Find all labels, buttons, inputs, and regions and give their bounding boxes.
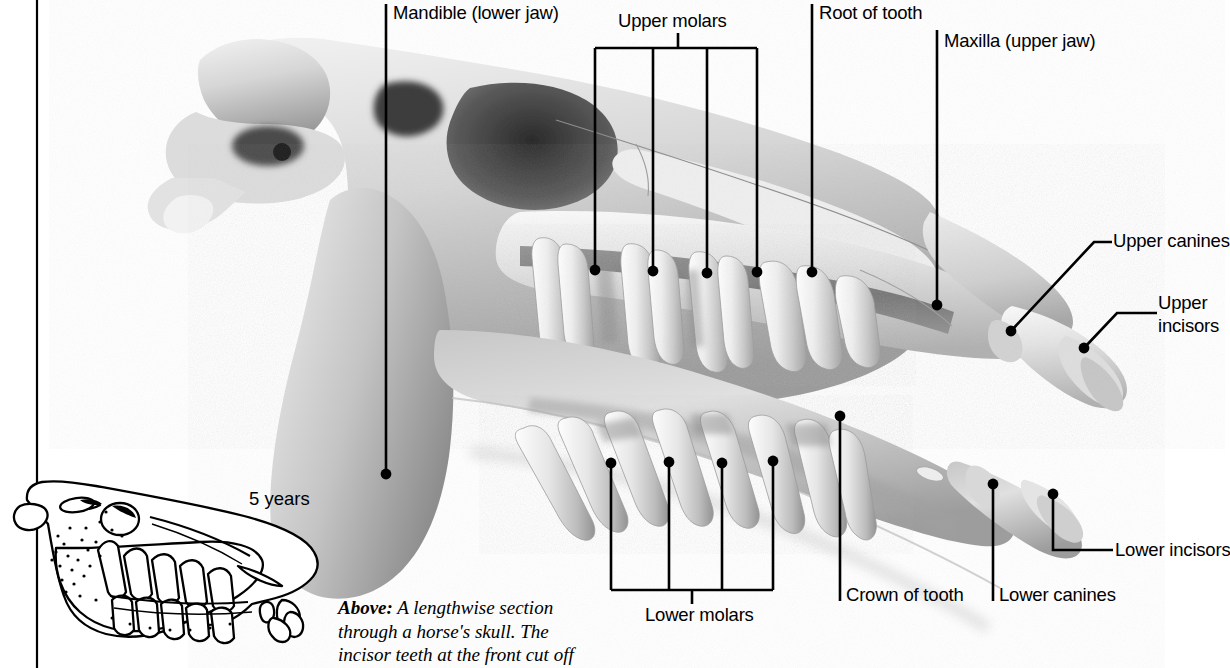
label-lower-molars: Lower molars [645, 604, 754, 625]
label-upper-incisors-line1: Upper [1158, 292, 1207, 313]
caption-line-1: Above: A lengthwise section [338, 597, 553, 618]
label-crown-of-tooth: Crown of tooth [846, 584, 964, 605]
inset-age-label: 5 years [249, 488, 310, 510]
caption-line-3: incisor teeth at the front cut off [338, 644, 574, 665]
label-lower-incisors: Lower incisors [1115, 539, 1230, 560]
label-upper-canines: Upper canines [1113, 230, 1230, 251]
caption-line-2: through a horse's skull. The [338, 621, 549, 642]
label-lower-canines: Lower canines [999, 584, 1116, 605]
label-upper-molars: Upper molars [618, 10, 727, 31]
label-mandible: Mandible (lower jaw) [393, 2, 559, 23]
label-upper-incisors-line2: incisors [1158, 315, 1219, 336]
inset-poll-notch [14, 504, 48, 530]
label-maxilla: Maxilla (upper jaw) [944, 30, 1095, 51]
figure-caption: Above: A lengthwise section through a ho… [338, 596, 638, 667]
label-root-of-tooth: Root of tooth [819, 2, 922, 23]
